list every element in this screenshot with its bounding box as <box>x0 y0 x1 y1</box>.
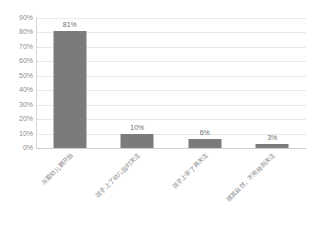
y-axis-line <box>36 18 37 149</box>
bar-value-label: 81% <box>63 21 77 29</box>
bar[interactable] <box>188 139 221 148</box>
x-label-slot: 孩子上了幼儿园时关注 <box>104 150 172 230</box>
y-axis-tick-label: 40% <box>1 86 33 94</box>
y-axis-tick-label: 30% <box>1 101 33 109</box>
y-axis-tick-label: 50% <box>1 72 33 80</box>
bar-value-label: 3% <box>267 134 277 142</box>
y-axis-tick-label: 0% <box>1 144 33 152</box>
bar-slot: 81% <box>36 18 104 148</box>
x-label-slot: 从婴幼儿期开始 <box>36 150 104 230</box>
y-axis-tick-label: 90% <box>1 14 33 22</box>
y-axis-tick-label: 20% <box>1 115 33 123</box>
bar-value-label: 6% <box>200 129 210 137</box>
y-axis-tick-label: 60% <box>1 57 33 65</box>
y-axis-tick-label: 70% <box>1 43 33 51</box>
x-axis-category-label: 从婴幼儿期开始 <box>40 152 75 187</box>
bar[interactable] <box>53 31 86 148</box>
x-label-slot: 孩子上学了再关注 <box>171 150 239 230</box>
bar-slot: 10% <box>104 18 172 148</box>
bar-slot: 3% <box>239 18 307 148</box>
x-axis-labels: 从婴幼儿期开始孩子上了幼儿园时关注孩子上学了再关注顺其自然，不用特别关注 <box>36 150 306 230</box>
bar-value-label: 10% <box>130 124 144 132</box>
y-axis: 90%80%70%60%50%40%30%20%10%0% <box>0 18 33 148</box>
bar-slot: 6% <box>171 18 239 148</box>
y-axis-tick-label: 10% <box>1 130 33 138</box>
x-label-slot: 顺其自然，不用特别关注 <box>239 150 307 230</box>
plot-area: 81%10%6%3% <box>36 18 306 148</box>
bar-chart: 81%10%6%3% 90%80%70%60%50%40%30%20%10%0%… <box>0 0 320 230</box>
bar[interactable] <box>121 134 154 148</box>
y-axis-tick-label: 80% <box>1 28 33 36</box>
x-axis-category-label: 孩子上学了再关注 <box>171 152 210 191</box>
x-axis-line <box>36 148 306 149</box>
